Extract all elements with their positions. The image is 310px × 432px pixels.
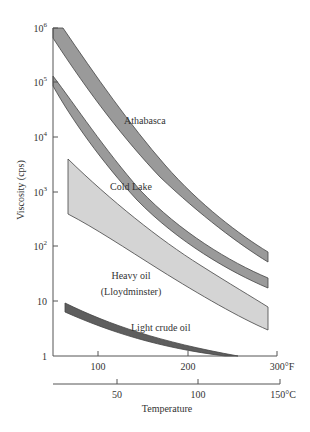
svg-text:200: 200	[181, 361, 196, 372]
svg-text:105: 105	[34, 75, 48, 88]
y-ticks	[53, 28, 58, 301]
svg-text:300°F: 300°F	[270, 361, 295, 372]
svg-text:104: 104	[34, 130, 48, 143]
label-athabasca: Athabasca	[124, 115, 166, 126]
svg-text:106: 106	[34, 21, 48, 34]
svg-text:150°C: 150°C	[270, 389, 296, 400]
fahrenheit-tick-labels: 100 200 300°F	[91, 361, 295, 372]
x-ticks-fahrenheit	[98, 351, 277, 356]
label-lloydminster: (Lloydminster)	[101, 286, 162, 298]
svg-text:50: 50	[112, 389, 122, 400]
label-cold-lake: Cold Lake	[110, 181, 152, 192]
athabasca-band	[53, 28, 268, 262]
svg-text:102: 102	[34, 239, 48, 252]
svg-text:1: 1	[42, 351, 47, 362]
y-tick-labels: 106 105 104 103 102 10 1	[34, 21, 48, 362]
celsius-tick-labels: 50 100 150°C	[112, 389, 296, 400]
svg-text:100: 100	[191, 389, 206, 400]
svg-text:100: 100	[91, 361, 106, 372]
svg-text:103: 103	[34, 185, 48, 198]
label-heavy-oil: Heavy oil	[111, 270, 150, 281]
x-axis-title: Temperature	[142, 403, 193, 414]
x-ticks-celsius	[117, 379, 280, 384]
viscosity-chart: 106 105 104 103 102 10 1 100 200 300°F 5…	[0, 0, 310, 432]
y-axis-title: Viscosity (cps)	[15, 160, 27, 220]
label-light-crude-oil: Light crude oil	[131, 322, 191, 333]
svg-text:10: 10	[37, 296, 47, 307]
